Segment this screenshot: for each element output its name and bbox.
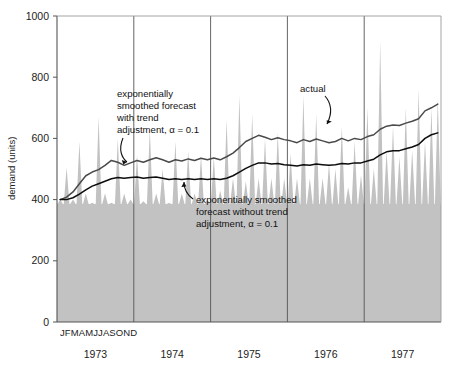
y-tick-label-800: 800 [31,71,49,83]
year-label-1975: 1975 [237,348,261,360]
demand-forecast-chart: 02004006008001000 demand (units) JFMAMJJ… [0,0,452,368]
annotation-line-1: actual [300,83,326,94]
y-tick-label-200: 200 [31,254,49,266]
y-tick-label-600: 600 [31,132,49,144]
annotation-line-1: exponentially [117,88,173,99]
annotation-line-2: smoothed forecast [117,100,196,111]
y-tick-label-0: 0 [43,316,49,328]
y-axis-title: demand (units) [6,137,17,200]
x-axis-month-letters: JFMAMJJASOND [60,327,137,338]
y-tick-label-400: 400 [31,193,49,205]
year-label-1977: 1977 [391,348,415,360]
annotation-line-1: exponentially smoothed [196,194,297,205]
annotation-line-3: adjustment, α = 0.1 [196,218,278,229]
annotation-line-4: adjustment, α = 0.1 [117,124,199,135]
figure-container: 02004006008001000 demand (units) JFMAMJJ… [0,0,452,368]
annotation-line-3: with trend [116,112,159,123]
year-label-1974: 1974 [161,348,185,360]
annotation-line-2: forecast without trend [196,206,288,217]
y-tick-label-1000: 1000 [26,10,50,22]
year-label-1973: 1973 [84,348,108,360]
year-label-1976: 1976 [314,348,338,360]
